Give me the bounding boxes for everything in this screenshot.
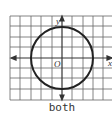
y-axis-up-arrow-icon [60, 16, 64, 21]
coordinate-plane: y x O [0, 0, 112, 116]
y-axis-down-arrow-icon [60, 95, 64, 100]
y-axis-label: y [55, 16, 60, 26]
axes [11, 16, 112, 100]
x-axis-label: x [107, 58, 112, 68]
caption: both [0, 101, 112, 114]
origin-label: O [54, 59, 61, 69]
x-axis-left-arrow-icon [11, 56, 16, 60]
